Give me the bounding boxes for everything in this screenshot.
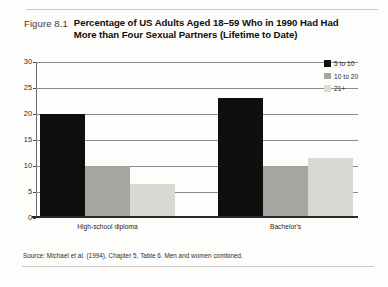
y-axis-tick-label: 5: [28, 187, 32, 196]
figure-number: Figure 8.1: [24, 17, 68, 29]
y-axis-tick-label: 10: [24, 161, 32, 170]
figure-header: Figure 8.1 Percentage of US Adults Aged …: [24, 17, 364, 42]
x-axis-line: [32, 216, 358, 218]
legend-item-label: 10 to 20: [334, 73, 358, 80]
x-axis-category-label: High-school diploma: [40, 223, 175, 230]
y-axis-tick-label: 20: [24, 109, 32, 118]
legend-swatch-icon: [324, 73, 331, 80]
legend-item: 10 to 20: [324, 73, 358, 80]
source-note: Source: Michael et al. (1994), Chapter 5…: [23, 252, 243, 259]
legend-item-label: 5 to 10: [334, 60, 355, 67]
y-axis-tick-label: 15: [24, 135, 32, 144]
x-axis-category-label: Bachelor's: [218, 223, 353, 230]
y-axis-tick: [33, 218, 37, 219]
legend-item: 21+: [324, 85, 358, 92]
bar: [40, 114, 85, 218]
bar: [263, 166, 308, 218]
y-axis-tick-label: 30: [24, 57, 32, 66]
footer-divider-bottom: [22, 266, 374, 267]
figure-title: Percentage of US Adults Aged 18–59 Who i…: [74, 17, 362, 42]
legend-swatch-icon: [324, 85, 331, 92]
bar: [85, 166, 130, 218]
bars-group: [36, 62, 358, 218]
figure-container: Figure 8.1 Percentage of US Adults Aged …: [0, 0, 388, 287]
header-divider-top: [26, 9, 378, 10]
legend-item: 5 to 10: [324, 60, 358, 67]
chart-legend: 5 to 1010 to 2021+: [324, 60, 358, 98]
bar: [218, 98, 263, 218]
bar: [130, 184, 175, 218]
legend-item-label: 21+: [334, 85, 345, 92]
bar: [308, 158, 353, 218]
y-axis-tick-label: 25: [24, 83, 32, 92]
plot-area: 051015202530: [36, 62, 358, 218]
legend-swatch-icon: [324, 60, 331, 67]
